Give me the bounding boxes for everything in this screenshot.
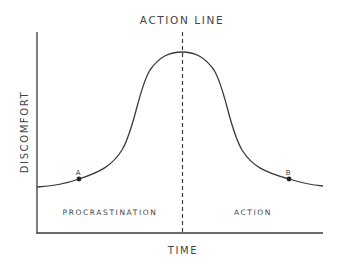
point-a-marker bbox=[77, 177, 82, 182]
action-line-diagram: ACTION LINE A B PROCRASTINATION ACTION T… bbox=[0, 0, 344, 266]
point-b-label: B bbox=[286, 169, 292, 177]
point-b-marker bbox=[287, 177, 292, 182]
region-procrastination-label: PROCRASTINATION bbox=[63, 208, 158, 217]
y-axis-label: DISCOMFORT bbox=[19, 91, 30, 173]
x-axis-label: TIME bbox=[167, 245, 198, 256]
region-action-label: ACTION bbox=[234, 208, 272, 217]
chart-title: ACTION LINE bbox=[140, 14, 224, 26]
discomfort-curve bbox=[37, 52, 323, 187]
point-a-label: A bbox=[76, 169, 82, 177]
